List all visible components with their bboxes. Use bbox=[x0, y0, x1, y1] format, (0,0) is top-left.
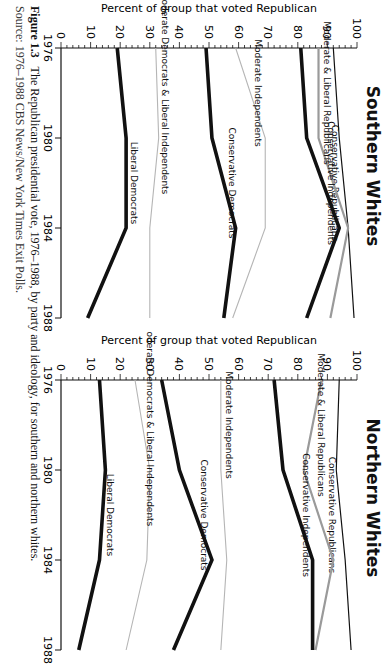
series-label: Liberal Democrats bbox=[105, 474, 115, 557]
y-tick-label: 80 bbox=[291, 25, 304, 39]
series-label: Conservative Democrats bbox=[199, 459, 209, 570]
figure-caption: Figure 1.3 The Republican presidential v… bbox=[12, 6, 42, 658]
series-label: Moderate Democrats & Liberal Independent… bbox=[160, 0, 170, 195]
y-tick-label: 100 bbox=[350, 18, 363, 39]
figure-label: Figure 1.3 bbox=[28, 6, 42, 58]
y-tick-label: 70 bbox=[261, 357, 274, 371]
y-tick-label: 50 bbox=[202, 25, 215, 39]
y-tick-label: 60 bbox=[232, 25, 245, 39]
y-tick-label: 0 bbox=[54, 364, 67, 371]
series-label: Liberal Democrats bbox=[129, 142, 139, 225]
x-tick-label: 1976 bbox=[42, 366, 54, 394]
x-tick-label: 1984 bbox=[42, 546, 54, 574]
series-label: Conservative Independents bbox=[326, 121, 336, 245]
x-tick-label: 1988 bbox=[42, 636, 54, 664]
series-label: Conservative Democrats bbox=[227, 127, 237, 238]
series-line bbox=[336, 380, 351, 650]
y-tick-label: 50 bbox=[202, 357, 215, 371]
y-tick-label: 80 bbox=[291, 357, 304, 371]
x-tick-label: 1984 bbox=[42, 214, 54, 242]
y-tick-label: 40 bbox=[172, 357, 185, 371]
y-tick-label: 20 bbox=[113, 357, 126, 371]
figure: Southern Whites 010203040506070809010019… bbox=[0, 0, 387, 664]
series-label: Moderate Democrats & Liberal Independent… bbox=[145, 332, 155, 527]
y-axis-label: Percent of group that voted Republican bbox=[101, 2, 317, 15]
y-tick-label: 30 bbox=[143, 25, 156, 39]
y-tick-label: 60 bbox=[232, 357, 245, 371]
series-line bbox=[79, 380, 106, 650]
y-tick-label: 100 bbox=[350, 350, 363, 371]
southern-whites-chart: Southern Whites 010203040506070809010019… bbox=[42, 0, 387, 332]
y-tick-label: 40 bbox=[172, 25, 185, 39]
x-tick-label: 1988 bbox=[42, 304, 54, 332]
series-line bbox=[88, 48, 126, 318]
y-tick-label: 70 bbox=[261, 25, 274, 39]
y-tick-label: 10 bbox=[84, 357, 97, 371]
series-line bbox=[150, 48, 159, 318]
x-tick-label: 1980 bbox=[42, 456, 54, 484]
series-label: Moderate Independents bbox=[224, 371, 234, 479]
y-tick-label: 20 bbox=[113, 25, 126, 39]
series-label: Conservative Independents bbox=[301, 453, 311, 577]
series-label: Moderate Independents bbox=[253, 39, 263, 147]
y-axis-label: Percent of group that voted Republican bbox=[101, 334, 317, 347]
series-label: Moderate & Liberal Republicans bbox=[316, 353, 326, 497]
plot-area: 01020304050607080901001976198019841988Pe… bbox=[42, 0, 387, 332]
y-tick-label: 0 bbox=[54, 32, 67, 39]
caption-source: Source: 1976–1988 CBS News/New York Time… bbox=[12, 6, 27, 658]
axes: 01020304050607080901001976198019841988Pe… bbox=[42, 2, 363, 332]
plot-area: 01020304050607080901001976198019841988Pe… bbox=[42, 332, 387, 664]
y-tick-label: 10 bbox=[84, 25, 97, 39]
northern-whites-chart: Northern Whites 010203040506070809010019… bbox=[42, 332, 387, 664]
x-tick-label: 1976 bbox=[42, 34, 54, 62]
x-tick-label: 1980 bbox=[42, 124, 54, 152]
caption-text: The Republican presidential vote, 1976–1… bbox=[28, 67, 42, 562]
